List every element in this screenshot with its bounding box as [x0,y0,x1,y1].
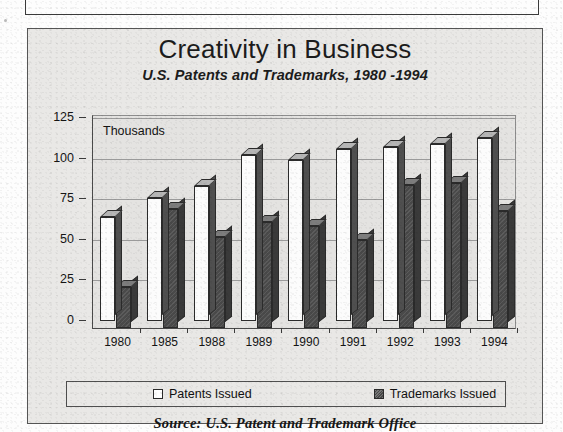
bar-side-face [461,172,468,322]
bar-group [470,116,517,328]
scan-speck [4,19,7,22]
x-axis-tick-mark [187,328,188,333]
bar-side-face [256,144,263,315]
x-axis-tick-mark [140,328,141,333]
x-axis-tick-mark [517,328,518,333]
bar-group [376,116,423,328]
bar-patents-issued-1994 [477,138,492,322]
bar-side-face [351,137,358,315]
bar-front-face [288,160,303,321]
x-axis-labels: 198019851988198919901991199219931994 [92,335,516,353]
bar-patents-issued-1993 [430,144,445,321]
legend-label-trademarks: Trademarks Issued [390,387,497,401]
bar-patents-issued-1992 [383,147,398,321]
y-axis-tick-mark [79,117,86,118]
bar-patents-issued-1991 [336,149,351,321]
y-axis-tick-label: 50 [60,232,74,246]
bar-front-face [100,217,115,321]
legend-item-trademarks: Trademarks Issued [374,387,497,401]
bar-patents-issued-1980 [100,217,115,321]
bar-side-face [367,229,374,322]
bar-group [187,116,234,328]
x-axis-tick-label: 1994 [481,335,508,349]
bar-patents-issued-1990 [288,160,303,321]
y-axis-tick-mark [79,279,86,280]
bar-side-face [225,226,232,322]
y-axis-tick-mark [79,320,86,321]
bar-group [281,116,328,328]
x-axis-tick-mark [234,328,235,333]
y-axis-tick-label: 0 [67,313,74,327]
bar-side-face [178,198,185,322]
bar-front-face [477,138,492,322]
y-axis-tick-mark [79,198,86,199]
bar-side-face [209,175,216,315]
white-square-icon [153,389,163,399]
bar-front-face [383,147,398,321]
x-axis-tick-mark [329,328,330,333]
legend-label-patents: Patents Issued [169,387,252,401]
plot-area: Thousands [92,115,516,329]
y-axis-tick-mark [79,158,86,159]
chart-header: Creativity in Business U.S. Patents and … [28,29,542,83]
bar-patents-issued-1985 [147,198,162,321]
bar-front-face [430,144,445,321]
x-axis-tick-mark [281,328,282,333]
bar-side-face [272,211,279,322]
legend-item-patents: Patents Issued [153,387,252,401]
bar-group [140,116,187,328]
y-axis-tick-label: 75 [60,191,74,205]
chart-panel: Creativity in Business U.S. Patents and … [27,28,543,424]
cut-off-box-above [25,0,539,15]
chart-legend: Patents Issued Trademarks Issued [66,381,506,407]
x-axis-tick-label: 1992 [387,335,414,349]
bar-group [423,116,470,328]
bar-front-face [241,155,256,321]
y-axis-tick-label: 125 [53,110,74,124]
x-axis-tick-mark [376,328,377,333]
x-axis-tick-label: 1993 [434,335,461,349]
bar-front-face [194,186,209,321]
bar-group [93,116,140,328]
x-axis-tick-label: 1989 [246,335,273,349]
bar-side-face [492,126,499,315]
bar-group [234,116,281,328]
bar-side-face [319,214,326,322]
y-axis-tick-label: 25 [60,272,74,286]
y-axis-tick-label: 100 [53,151,74,165]
grid-line [93,118,515,119]
page-title: Creativity in Business [28,35,542,64]
bar-front-face [147,198,162,321]
y-axis: 0255075100125 [40,109,86,359]
x-axis-tick-mark [423,328,424,333]
plot-wrapper: 0255075100125 Thousands 1980198519881989… [40,109,532,359]
bar-side-face [115,206,122,315]
bar-side-face [445,133,452,315]
x-axis-tick-label: 1990 [293,335,320,349]
bar-side-face [398,136,405,315]
x-axis-tick-mark [470,328,471,333]
x-axis-tick-label: 1991 [340,335,367,349]
hatched-square-icon [374,389,384,399]
chart-subtitle: U.S. Patents and Trademarks, 1980 -1994 [28,67,542,83]
x-axis-tick-label: 1985 [151,335,178,349]
bar-front-face [336,149,351,321]
bar-side-face [162,186,169,315]
bar-side-face [303,149,310,315]
bar-patents-issued-1988 [194,186,209,321]
bar-patents-issued-1989 [241,155,256,321]
bar-group [329,116,376,328]
x-axis-tick-label: 1980 [104,335,131,349]
source-note: Source: U.S. Patent and Trademark Office [28,415,542,432]
x-axis-tick-label: 1988 [198,335,225,349]
bar-series-container [93,116,515,328]
y-axis-tick-mark [79,239,86,240]
bar-side-face [508,200,515,322]
bar-side-face [414,174,421,322]
